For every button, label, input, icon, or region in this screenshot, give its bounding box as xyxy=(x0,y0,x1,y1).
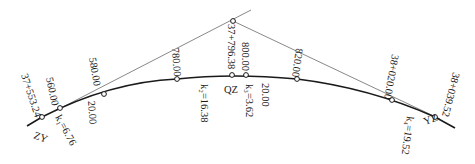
yz-station-label: 38+039.52 xyxy=(440,72,462,119)
k4-segment-label: k₄=19.52 xyxy=(400,116,416,156)
left-tangent-line xyxy=(55,10,251,111)
curve-stakeout-diagram: 37+553.24 560.00 580.00 780.00 37+796.38… xyxy=(0,0,475,164)
left-interval-label: 20.00 xyxy=(86,100,99,124)
station-38020-label: 38+020.00 xyxy=(382,54,401,101)
intersection-point-marker xyxy=(231,19,236,24)
qz-name-label: QZ xyxy=(224,84,238,95)
zy-name-label: ZY xyxy=(32,130,49,145)
station-580-label: 580.00 xyxy=(87,56,103,86)
station-800-marker xyxy=(244,73,249,78)
station-780-marker xyxy=(175,77,180,82)
yz-name-label: YZ xyxy=(422,112,439,127)
station-560-label: 560.00 xyxy=(44,76,61,107)
qz-point-marker xyxy=(230,73,235,78)
right-interval-label: 20.00 xyxy=(260,83,271,107)
station-800-label: 800.00 xyxy=(240,42,251,71)
station-820-label: 820.00 xyxy=(290,48,305,78)
k1-segment-label: k₁=6.76 xyxy=(53,113,78,147)
station-580-marker xyxy=(102,92,107,97)
qz-station-label: 37+796.38 xyxy=(226,24,237,69)
station-560-marker xyxy=(58,106,63,111)
k2-segment-label: k₂=16.38 xyxy=(199,84,210,122)
zy-station-label: 37+553.24 xyxy=(19,72,44,119)
station-780-label: 780.00 xyxy=(170,47,183,77)
k3-segment-label: k₃=3.62 xyxy=(244,84,255,117)
